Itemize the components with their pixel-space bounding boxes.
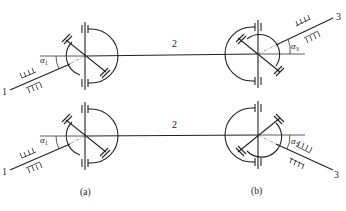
universal-joint-diagram: 2 (0, 0, 346, 211)
alpha1-label-bottom: α1 (40, 135, 48, 146)
shaft-3-label-top: 3 (336, 11, 341, 22)
cross-arm-diagonal (238, 38, 280, 72)
angle-arc-alpha3 (288, 39, 290, 54)
intermediate-shaft-top (85, 54, 258, 56)
shaft-2-label-bottom: 2 (172, 119, 177, 130)
shaft-1-label-top: 1 (2, 86, 7, 97)
alpha3-label: α3 (291, 41, 299, 52)
caption-b: (b) (251, 186, 262, 197)
angle-arc-alpha1 (56, 56, 59, 69)
shaft-2-label-top: 2 (172, 38, 177, 49)
shaft-1-label-bottom: 1 (2, 166, 7, 177)
input-shaft-top: α1 1 (2, 55, 70, 97)
diagram-canvas: 2 (0, 0, 346, 211)
yoke-arc-inner (247, 35, 280, 66)
yoke-arc-inner (66, 42, 80, 75)
shaft-1-line (10, 64, 70, 90)
alpha1-label: α1 (40, 55, 48, 66)
top-row: 2 (2, 11, 341, 97)
input-shaft-bottom: α1 1 (2, 135, 70, 177)
intermediate-shaft-bottom (85, 135, 258, 136)
shaft-3-label-bottom: 3 (334, 169, 339, 180)
caption-a: (a) (80, 187, 91, 198)
output-shaft-top: α3 3 (276, 11, 341, 54)
output-shaft-bottom: α3 3 (276, 135, 339, 180)
alpha3-label-bottom: α3 (291, 136, 299, 147)
bottom-row: 2 (2, 101, 339, 180)
